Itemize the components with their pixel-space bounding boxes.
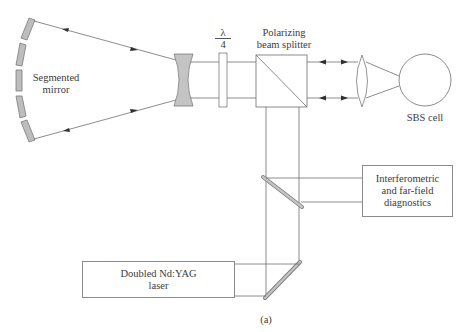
laser-label-line1: Doubled Nd:YAG (120, 268, 196, 280)
sbs-cell-label-text: SBS cell (407, 112, 443, 123)
sbs-cell-label: SBS cell (400, 112, 450, 124)
caption-text: (a) (260, 314, 272, 325)
quarter-wave-plate (219, 53, 227, 107)
quarter-wave-label: λ 4 (215, 27, 231, 50)
diagnostics-label-line2: and far-field (382, 185, 434, 197)
segmented-mirror-label-line1: Segmented (28, 72, 84, 84)
sbs-cell (399, 54, 451, 106)
polarizing-beam-splitter (256, 55, 307, 107)
segmented-mirror-label-line2: mirror (28, 84, 84, 96)
focusing-beams (366, 62, 399, 98)
segmented-mirror-label: Segmented mirror (28, 72, 84, 96)
quarter-denominator: 4 (215, 39, 231, 50)
figure-caption: (a) (250, 314, 282, 326)
laser-beams (234, 264, 300, 296)
laser-box: Doubled Nd:YAG laser (82, 261, 235, 298)
beam-splitter-label: Polarizing beam splitter (246, 27, 322, 51)
diagnostics-label-line3: diagnostics (384, 197, 431, 209)
positive-lens (357, 55, 368, 107)
beam-splitter-label-line2: beam splitter (246, 39, 322, 51)
beam-splitter-label-line1: Polarizing (246, 27, 322, 39)
lambda-symbol: λ (215, 27, 231, 39)
double-arrows (319, 60, 348, 101)
diagnostics-box: Interferometric and far-field diagnostic… (362, 165, 453, 217)
diagnostics-label-line1: Interferometric (376, 173, 440, 185)
laser-label-line2: laser (149, 280, 169, 292)
